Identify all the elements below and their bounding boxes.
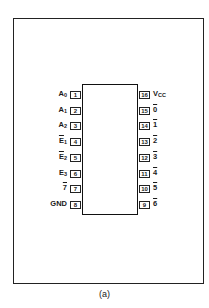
pin-16-box: 16 (139, 91, 150, 99)
pin-8-label: GND (50, 200, 67, 208)
pin-5-label: E2 (59, 153, 67, 162)
pin-6-box: 6 (70, 170, 81, 178)
pin-1-label: A0 (59, 90, 67, 99)
pin-6-label: E3 (59, 169, 67, 178)
pin-14-label: 1 (153, 121, 157, 129)
pin-1-box: 1 (70, 91, 81, 99)
pin-4-box: 4 (70, 138, 81, 146)
pin-15-box: 15 (139, 107, 150, 115)
pin-10-label: 5 (153, 184, 157, 192)
pin-7-box: 7 (70, 185, 81, 193)
pin-16-label: VCC (153, 90, 166, 99)
ic-body (82, 84, 138, 215)
pin-8-box: 8 (70, 201, 81, 209)
pin-3-label: A2 (59, 121, 67, 130)
pin-10-box: 10 (139, 185, 150, 193)
pin-11-box: 11 (139, 170, 150, 178)
pin-2-label: A1 (59, 106, 67, 115)
pin-5-box: 5 (70, 154, 81, 162)
pin-3-box: 3 (70, 122, 81, 130)
pin-13-label: 2 (153, 137, 157, 145)
figure-caption: (a) (0, 289, 209, 299)
pin-12-box: 12 (139, 154, 150, 162)
pin-2-box: 2 (70, 107, 81, 115)
pin-15-label: 0 (153, 106, 157, 114)
pin-12-label: 3 (153, 153, 157, 161)
pin-9-label: 6 (153, 200, 157, 208)
pin-9-box: 9 (139, 201, 150, 209)
pin-11-label: 4 (153, 169, 157, 177)
pin-4-label: E1 (59, 137, 67, 146)
pin-13-box: 13 (139, 138, 150, 146)
pin-7-label: 7 (63, 184, 67, 192)
pin-14-box: 14 (139, 122, 150, 130)
